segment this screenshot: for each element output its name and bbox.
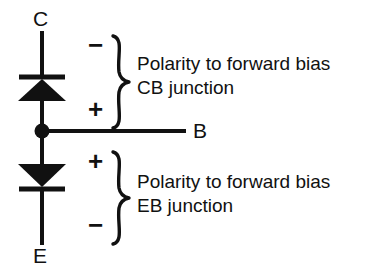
cb-annotation-line2: CB junction — [137, 76, 234, 99]
eb-annotation-brace — [113, 152, 129, 244]
cb-plus-sign: + — [88, 96, 103, 122]
cb-annotation-line1: Polarity to forward bias — [137, 52, 330, 75]
upper-diode-triangle — [18, 79, 66, 101]
lower-diode-symbol — [18, 164, 66, 189]
eb-minus-sign: − — [88, 212, 103, 238]
eb-annotation-line1: Polarity to forward bias — [137, 170, 330, 193]
base-terminal-label: B — [193, 120, 207, 141]
upper-diode-symbol — [18, 77, 66, 101]
diagram-canvas: C B E − + Polarity to forward bias CB ju… — [0, 0, 378, 277]
eb-annotation-line2: EB junction — [137, 194, 233, 217]
cb-annotation-brace — [113, 36, 129, 128]
cb-minus-sign: − — [88, 32, 103, 58]
emitter-terminal-label: E — [33, 245, 47, 266]
collector-terminal-label: C — [33, 8, 48, 29]
eb-plus-sign: + — [88, 148, 103, 174]
circuit-graphics — [0, 0, 378, 277]
lower-diode-triangle — [18, 164, 66, 187]
